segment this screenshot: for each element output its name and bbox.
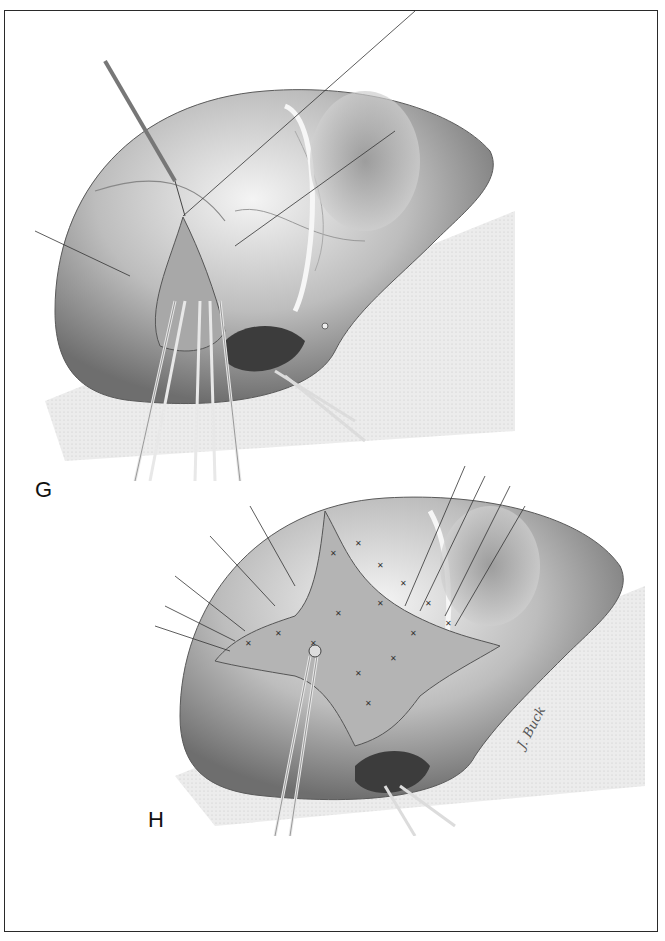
svg-text:✕: ✕: [445, 619, 452, 628]
svg-text:✕: ✕: [245, 639, 252, 648]
liver-illustration-g: [35, 11, 515, 481]
svg-text:✕: ✕: [275, 629, 282, 638]
panel-label-h: H: [148, 807, 164, 833]
illustration-panel-h: ✕✕✕ ✕✕✕ ✕✕✕ ✕✕✕ ✕✕✕: [155, 466, 645, 836]
svg-text:✕: ✕: [425, 599, 432, 608]
panel-label-g: G: [35, 477, 52, 503]
svg-text:✕: ✕: [377, 561, 384, 570]
svg-text:✕: ✕: [410, 629, 417, 638]
svg-text:✕: ✕: [400, 579, 407, 588]
svg-text:✕: ✕: [330, 549, 337, 558]
svg-text:✕: ✕: [355, 669, 362, 678]
svg-text:✕: ✕: [335, 609, 342, 618]
svg-text:✕: ✕: [390, 654, 397, 663]
svg-text:✕: ✕: [365, 699, 372, 708]
liver-illustration-h: ✕✕✕ ✕✕✕ ✕✕✕ ✕✕✕ ✕✕✕: [155, 466, 645, 836]
page-frame: G: [4, 10, 658, 932]
svg-text:✕: ✕: [377, 599, 384, 608]
illustration-panel-g: [35, 11, 515, 481]
svg-text:✕: ✕: [355, 539, 362, 548]
